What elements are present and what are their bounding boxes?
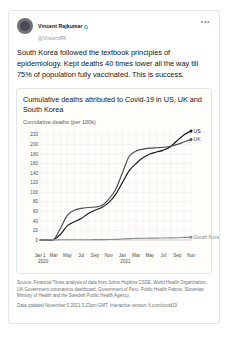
embedded-chart-card[interactable]: Cumulative deaths attributed to Covid-19… bbox=[16, 88, 212, 275]
tweet-header: Vincent Rajkumar @VincentRK ••• bbox=[9, 11, 219, 41]
x-axis-tick-label: May bbox=[145, 253, 154, 258]
source-line: Source: Financial Times analysis of data… bbox=[17, 280, 211, 299]
x-axis-tick-label: Mar bbox=[50, 253, 58, 258]
chart-title: Cumulative deaths attributed to Covid-19… bbox=[23, 95, 205, 116]
updated-line: Data updated November 5 2021 3.23pm GMT.… bbox=[17, 303, 211, 309]
series-endpoint-us bbox=[190, 130, 193, 133]
x-axis-tick-label: Mar bbox=[132, 253, 140, 258]
chart-plot-area: 204060801001201401601802002200USUKSouth … bbox=[23, 128, 205, 252]
x-axis-tick-label: Jul bbox=[78, 253, 84, 258]
chart-subtitle: Cumulative deaths (per 100k) bbox=[23, 119, 205, 125]
tweet-card: Vincent Rajkumar @VincentRK ••• South Ko… bbox=[8, 10, 220, 324]
more-options-icon[interactable]: ••• bbox=[201, 18, 211, 25]
author-block: Vincent Rajkumar @VincentRK bbox=[38, 18, 201, 41]
y-axis-tick-label: 140 bbox=[30, 171, 38, 176]
screenshot-root: Vincent Rajkumar @VincentRK ••• South Ko… bbox=[0, 0, 228, 342]
y-axis-tick-label: 80 bbox=[33, 200, 39, 205]
x-axis-tick-label: Jan bbox=[119, 253, 126, 258]
author-display-name[interactable]: Vincent Rajkumar bbox=[38, 24, 83, 29]
y-axis-tick-label: 200 bbox=[30, 143, 38, 148]
series-label-us: US bbox=[194, 128, 202, 134]
x-axis-tick-label: Sep bbox=[91, 253, 99, 258]
line-chart-svg: 204060801001201401601802002200USUKSouth … bbox=[23, 128, 219, 252]
y-axis-tick-label: 180 bbox=[30, 152, 38, 157]
x-axis-year-label: 2020 bbox=[38, 259, 48, 264]
tweet-body-text: South Korea followed the textbook princi… bbox=[9, 41, 219, 81]
series-label-south-korea: South Korea bbox=[194, 234, 219, 240]
y-axis-tick-label: 40 bbox=[33, 219, 39, 224]
chart-source-note: Source: Financial Times analysis of data… bbox=[9, 274, 219, 309]
x-axis-year-label: 2021 bbox=[120, 259, 130, 264]
y-axis-tick-label: 160 bbox=[30, 162, 38, 167]
verified-badge-icon bbox=[84, 25, 88, 29]
x-axis-tick-label: Jul bbox=[161, 253, 167, 258]
x-axis-tick-label: Jan 1 bbox=[34, 253, 45, 258]
avatar[interactable] bbox=[17, 18, 33, 34]
y-axis-tick-label: 20 bbox=[33, 229, 39, 234]
y-axis-tick-label: 220 bbox=[30, 133, 38, 138]
author-handle[interactable]: @VincentRK bbox=[38, 36, 201, 41]
y-axis-tick-label-zero: 0 bbox=[35, 238, 38, 243]
x-axis-tick-label: Sep bbox=[173, 253, 181, 258]
series-endpoint-south-korea bbox=[190, 236, 193, 239]
y-axis-tick-label: 120 bbox=[30, 181, 38, 186]
x-axis-label-row: Jan 1MarMayJulSepNovJanMarMayJulSepNov20… bbox=[23, 253, 205, 269]
x-axis-tick-label: Nov bbox=[187, 253, 195, 258]
x-axis-tick-label: May bbox=[63, 253, 72, 258]
y-axis-tick-label: 100 bbox=[30, 190, 38, 195]
y-axis-tick-label: 60 bbox=[33, 209, 39, 214]
series-endpoint-uk bbox=[190, 139, 193, 142]
x-axis-tick-label: Nov bbox=[105, 253, 113, 258]
series-label-uk: UK bbox=[194, 137, 202, 143]
